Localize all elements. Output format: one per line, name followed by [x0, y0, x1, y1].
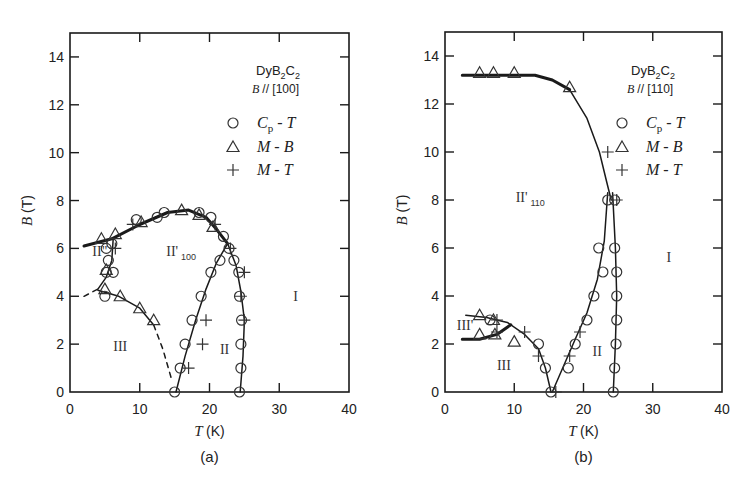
triangle-marker-icon [227, 141, 239, 152]
x-axis-unit: (K) [206, 423, 225, 439]
legend-label: Cp - T [646, 114, 686, 134]
phase-region-label: II [220, 342, 230, 357]
x-axis-title: T (K) [568, 423, 599, 439]
compound-part: DyB [256, 63, 281, 78]
phase-name: III' [457, 318, 474, 333]
panel-a: 01020304002468101214T (K)B (T)(a)DyB2C2B… [19, 33, 357, 465]
legend-t: T [676, 114, 686, 131]
phase-region-label: I [667, 250, 672, 265]
legend-t: T [287, 114, 297, 131]
y-tick-label: 2 [431, 336, 439, 352]
field-dir-rest: // [110] [637, 82, 673, 96]
panel-label: (a) [200, 448, 218, 465]
circle-marker-icon [236, 363, 246, 373]
plus-marker-icon [200, 314, 212, 326]
legend-dash: - [662, 114, 675, 131]
phase-name: II' [166, 244, 178, 259]
triangle-marker-icon [474, 309, 486, 320]
plus-marker-icon [183, 362, 195, 374]
phase-diagram-figure: 01020304002468101214T (K)B (T)(a)DyB2C2B… [0, 0, 747, 496]
field-direction-label: B // [110] [627, 82, 673, 96]
phase-region-label: III [113, 339, 127, 354]
plus-marker-icon [109, 242, 121, 254]
triangle-marker-icon [508, 336, 520, 347]
plus-marker-icon [550, 386, 562, 398]
x-tick-label: 20 [576, 401, 592, 417]
plus-marker-icon [616, 164, 628, 176]
x-tick-label: 40 [341, 401, 357, 417]
phase-boundary-curve [84, 289, 98, 296]
compound-part: C [286, 63, 295, 78]
x-tick-label: 0 [66, 401, 74, 417]
y-axis-title: B (T) [394, 195, 410, 226]
y-tick-label: 6 [56, 240, 64, 256]
phase-name: III [497, 358, 511, 373]
legend-c: C [257, 114, 268, 131]
x-tick-label: 0 [441, 401, 449, 417]
circle-marker-icon [533, 339, 543, 349]
phase-name: III [113, 339, 127, 354]
phase-boundary-curve [552, 193, 607, 392]
plus-marker-icon [227, 164, 239, 176]
y-axis-unit: (T) [19, 195, 35, 213]
phase-name: II [220, 342, 230, 357]
y-tick-label: 4 [56, 288, 64, 304]
phase-region-label: II'110 [516, 190, 545, 208]
y-tick-label: 10 [48, 145, 64, 161]
y-tick-label: 0 [431, 384, 439, 400]
compound-part: C [661, 63, 670, 78]
circle-marker-icon [617, 118, 627, 128]
y-tick-label: 12 [423, 96, 439, 112]
plus-marker-icon [519, 326, 531, 338]
phase-name: II [593, 344, 603, 359]
phase-name: I [667, 250, 672, 265]
plus-marker-icon [197, 338, 209, 350]
y-tick-label: 6 [431, 240, 439, 256]
compound-label: DyB2C2 [256, 63, 300, 81]
phase-subscript: 100 [181, 252, 196, 262]
phase-region-label: I [293, 289, 298, 304]
panel-label: (b) [574, 448, 592, 465]
field-var: B [627, 82, 637, 96]
field-var: B [252, 82, 262, 96]
x-axis-unit: (K) [580, 423, 599, 439]
y-axis-var: B [19, 213, 35, 226]
y-axis-unit: (T) [394, 195, 410, 213]
plus-marker-icon [602, 146, 614, 158]
y-tick-label: 0 [56, 384, 64, 400]
x-axis-var: T [194, 423, 206, 439]
phase-region-label: II" [92, 244, 107, 259]
y-axis-title: B (T) [19, 195, 35, 226]
compound-sub: 2 [670, 71, 675, 81]
compound-part: DyB [631, 63, 656, 78]
phase-name: I [293, 289, 298, 304]
triangle-marker-icon [616, 141, 628, 152]
x-tick-label: 10 [506, 401, 522, 417]
y-tick-label: 4 [431, 288, 439, 304]
y-tick-label: 8 [431, 192, 439, 208]
compound-label: DyB2C2 [631, 63, 675, 81]
legend-label: M - B [256, 138, 294, 155]
y-tick-label: 14 [423, 48, 439, 64]
circle-marker-icon [594, 243, 604, 253]
phase-name: II' [516, 190, 528, 205]
legend-label: M - B [645, 138, 683, 155]
circle-marker-icon [563, 363, 573, 373]
x-tick-label: 30 [271, 401, 287, 417]
circle-marker-icon [236, 339, 246, 349]
y-tick-label: 14 [48, 49, 64, 65]
field-dir-rest: // [100] [262, 82, 299, 96]
phase-boundary-curve [154, 325, 171, 378]
panel-b: 01020304002468101214T (K)B (T)(b)DyB2C2B… [394, 32, 730, 465]
x-tick-label: 20 [202, 401, 218, 417]
field-direction-label: B // [100] [252, 82, 299, 96]
y-axis-var: B [394, 212, 410, 225]
circle-marker-icon [196, 291, 206, 301]
phase-region-label: III [497, 358, 511, 373]
phase-region-label: II'100 [166, 244, 196, 262]
circle-marker-icon [228, 118, 238, 128]
phase-boundary-curve [98, 290, 154, 325]
compound-sub: 2 [295, 71, 300, 81]
y-tick-label: 10 [423, 144, 439, 160]
x-tick-label: 30 [645, 401, 661, 417]
